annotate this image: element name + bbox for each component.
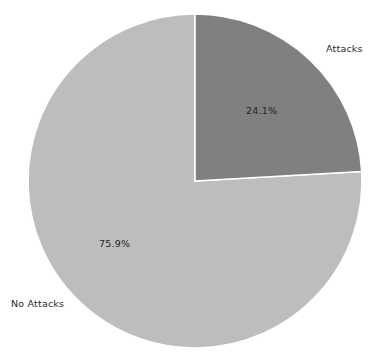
pie-wedges	[28, 14, 362, 348]
pie-chart-figure: Attacks 24.1% 75.9% No Attacks	[0, 0, 380, 363]
pie-slice-attacks[interactable]	[195, 14, 362, 181]
slice-percent-no-attacks: 75.9%	[99, 239, 130, 249]
slice-percent-attacks: 24.1%	[246, 106, 277, 116]
slice-label-no-attacks: No Attacks	[11, 299, 64, 309]
slice-label-attacks: Attacks	[326, 44, 363, 54]
